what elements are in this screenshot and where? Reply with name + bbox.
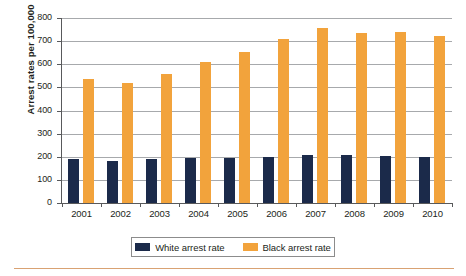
bar-black-arrest-rate-2005 xyxy=(239,52,250,203)
bar-black-arrest-rate-2007 xyxy=(317,28,328,203)
y-tick-mark-700 xyxy=(57,41,62,42)
x-tick-mark-2007 xyxy=(296,203,297,207)
y-tick-label-500: 500 xyxy=(12,81,52,91)
bar-group-2006 xyxy=(263,18,289,203)
x-tick-mark-2006 xyxy=(257,203,258,207)
bar-white-arrest-rate-2008 xyxy=(341,155,352,203)
bar-black-arrest-rate-2009 xyxy=(395,32,406,203)
bar-black-arrest-rate-2006 xyxy=(278,39,289,203)
bar-white-arrest-rate-2010 xyxy=(419,157,430,203)
legend-label-black-arrest-rate: Black arrest rate xyxy=(263,242,331,253)
x-tick-mark-2005 xyxy=(218,203,219,207)
x-tick-mark-end xyxy=(452,203,453,207)
y-tick-label-700: 700 xyxy=(12,35,52,45)
y-tick-label-800: 800 xyxy=(12,12,52,22)
x-tick-mark-2001 xyxy=(62,203,63,207)
bar-white-arrest-rate-2009 xyxy=(380,156,391,203)
bar-chart-figure: Arrest rates per 100,000 010020030040050… xyxy=(0,0,466,276)
bar-group-2005 xyxy=(224,18,250,203)
bar-group-2008 xyxy=(341,18,367,203)
bar-group-2007 xyxy=(302,18,328,203)
bar-black-arrest-rate-2008 xyxy=(356,33,367,203)
y-tick-label-0: 0 xyxy=(12,197,52,207)
bar-white-arrest-rate-2007 xyxy=(302,155,313,203)
bar-white-arrest-rate-2006 xyxy=(263,157,274,203)
legend-label-white-arrest-rate: White arrest rate xyxy=(155,242,224,253)
legend-swatch-icon-black-rate xyxy=(243,243,258,251)
y-tick-mark-200 xyxy=(57,157,62,158)
bar-white-arrest-rate-2004 xyxy=(185,158,196,203)
bar-group-2010 xyxy=(419,18,445,203)
bar-white-arrest-rate-2003 xyxy=(146,159,157,203)
bar-black-arrest-rate-2002 xyxy=(122,83,133,203)
bar-white-arrest-rate-2005 xyxy=(224,158,235,203)
bar-white-arrest-rate-2001 xyxy=(68,159,79,203)
x-tick-mark-2003 xyxy=(140,203,141,207)
bar-group-2003 xyxy=(146,18,172,203)
y-tick-mark-400 xyxy=(57,111,62,112)
y-tick-mark-300 xyxy=(57,134,62,135)
bar-group-2001 xyxy=(68,18,94,203)
y-tick-label-100: 100 xyxy=(12,174,52,184)
y-tick-mark-100 xyxy=(57,180,62,181)
legend-swatch-icon-white-rate xyxy=(135,243,150,251)
plot-area xyxy=(62,18,452,203)
y-tick-label-600: 600 xyxy=(12,58,52,68)
x-tick-mark-2004 xyxy=(179,203,180,207)
chart-legend: White arrest rate Black arrest rate xyxy=(131,237,335,257)
x-tick-label-2010: 2010 xyxy=(410,208,456,219)
y-tick-label-400: 400 xyxy=(12,105,52,115)
x-tick-mark-2008 xyxy=(335,203,336,207)
legend-entry-black-arrest-rate: Black arrest rate xyxy=(243,242,331,253)
bar-group-2004 xyxy=(185,18,211,203)
bar-black-arrest-rate-2001 xyxy=(83,79,94,203)
bar-group-2009 xyxy=(380,18,406,203)
x-tick-mark-2010 xyxy=(413,203,414,207)
bar-white-arrest-rate-2002 xyxy=(107,161,118,203)
bar-black-arrest-rate-2003 xyxy=(161,74,172,203)
bar-black-arrest-rate-2004 xyxy=(200,62,211,203)
bar-black-arrest-rate-2010 xyxy=(434,36,445,203)
y-tick-mark-800 xyxy=(57,18,62,19)
bar-group-2002 xyxy=(107,18,133,203)
y-tick-mark-600 xyxy=(57,64,62,65)
y-tick-label-300: 300 xyxy=(12,128,52,138)
legend-entry-white-arrest-rate: White arrest rate xyxy=(135,242,224,253)
y-tick-label-200: 200 xyxy=(12,151,52,161)
x-tick-mark-2002 xyxy=(101,203,102,207)
bottom-divider-rule xyxy=(14,268,454,269)
y-tick-mark-500 xyxy=(57,87,62,88)
x-tick-mark-2009 xyxy=(374,203,375,207)
